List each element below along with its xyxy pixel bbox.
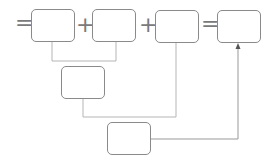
plus-sign: + xyxy=(76,14,90,36)
answer-box-2[interactable] xyxy=(92,9,136,42)
answer-box-4[interactable] xyxy=(217,10,261,43)
answer-box-5[interactable] xyxy=(61,66,105,99)
connector-box6-box4 xyxy=(151,48,238,139)
answer-box-6[interactable] xyxy=(107,122,151,155)
equals-sign: = xyxy=(201,13,215,35)
plus-sign: + xyxy=(139,14,153,36)
bracket-box1-box2 xyxy=(52,42,116,61)
answer-box-3[interactable] xyxy=(155,10,199,43)
arrow-up-icon xyxy=(236,43,241,49)
answer-box-1[interactable] xyxy=(31,9,75,42)
equals-sign: = xyxy=(15,12,29,34)
